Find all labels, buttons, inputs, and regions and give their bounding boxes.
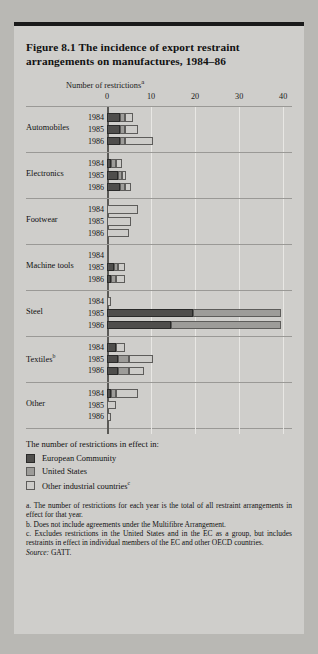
- bar-segment-other: [118, 263, 125, 271]
- legend: The number of restrictions in effect in:…: [26, 439, 292, 491]
- bar-segment-ec: [107, 343, 116, 351]
- footnotes: a. The number of restrictions for each y…: [26, 501, 292, 557]
- source-prefix: Source:: [26, 548, 49, 557]
- x-tick-20: 20: [191, 92, 199, 101]
- year-label: 1986: [84, 229, 104, 238]
- footnote-a: a. The number of restrictions for each y…: [26, 501, 292, 520]
- legend-swatch-other: [26, 481, 35, 490]
- bar-row: 1986: [26, 274, 292, 284]
- stacked-bar: [107, 137, 153, 145]
- bar-segment-other: [116, 343, 125, 351]
- footnote-c: c. Excludes restrictions in the United S…: [26, 529, 292, 548]
- stacked-bar: [107, 217, 131, 225]
- bar-row: 1986: [26, 182, 292, 192]
- bar-segment-ec: [107, 367, 118, 375]
- group-spacer: [26, 383, 292, 387]
- legend-label-us: United States: [42, 467, 87, 476]
- legend-swatch-us: [26, 467, 35, 476]
- bar-segment-us: [118, 367, 129, 375]
- year-label: 1986: [84, 137, 104, 146]
- stacked-bar: [107, 401, 116, 409]
- bar-row: 1986: [26, 412, 292, 422]
- group-spacer: [26, 245, 292, 249]
- bar-segment-other: [107, 401, 116, 409]
- bar-row: 1986: [26, 228, 292, 238]
- legend-label-ec: European Community: [42, 454, 116, 463]
- stacked-bar: [107, 205, 138, 213]
- legend-items: European CommunityUnited StatesOther ind…: [26, 454, 292, 491]
- bar-segment-us: [118, 355, 129, 363]
- bar-row: 1984: [26, 296, 292, 306]
- legend-label-text: Other industrial countries: [42, 482, 128, 491]
- bar-row: 1985: [26, 400, 292, 410]
- stacked-bar: [107, 113, 133, 121]
- bar-segment-other: [116, 159, 123, 167]
- stacked-bar: [107, 171, 126, 179]
- bar-groups: Automobiles198419851986Electronics198419…: [26, 106, 292, 428]
- stacked-bar: [107, 389, 138, 397]
- stacked-bar: [107, 125, 138, 133]
- x-tick-10: 10: [147, 92, 155, 101]
- year-label: 1986: [84, 366, 104, 375]
- year-label: 1984: [84, 297, 104, 306]
- stacked-bar: [107, 321, 281, 329]
- group-spacer: [26, 199, 292, 203]
- bar-row: 1984: [26, 388, 292, 398]
- year-label: 1984: [84, 113, 104, 122]
- bar-group: Machine tools198419851986: [26, 244, 292, 290]
- bar-group: Automobiles198419851986: [26, 106, 292, 152]
- bar-segment-ec: [107, 263, 114, 271]
- x-tick-30: 30: [235, 92, 243, 101]
- bar-segment-ec: [107, 137, 120, 145]
- bar-segment-ec: [107, 171, 118, 179]
- bar-segment-other: [107, 297, 111, 305]
- figure-title: Figure 8.1 The incidence of export restr…: [26, 40, 292, 68]
- bar-row: 1985: [26, 124, 292, 134]
- stacked-bar: [107, 343, 125, 351]
- bar-group: Textilesb198419851986: [26, 336, 292, 382]
- year-label: 1984: [84, 159, 104, 168]
- stacked-bar: [107, 309, 281, 317]
- legend-label-text: European Community: [42, 454, 116, 463]
- group-spacer: [26, 153, 292, 157]
- bar-segment-us: [193, 309, 281, 317]
- bar-group: Footwear198419851986: [26, 198, 292, 244]
- year-label: 1986: [84, 275, 104, 284]
- stacked-bar: [107, 413, 111, 421]
- bar-segment-other: [116, 275, 125, 283]
- year-label: 1986: [84, 321, 104, 330]
- group-spacer: [26, 291, 292, 295]
- year-label: 1985: [84, 217, 104, 226]
- bar-segment-other: [107, 229, 129, 237]
- legend-label-text: United States: [42, 467, 87, 476]
- bar-group: Other198419851986: [26, 382, 292, 428]
- legend-label-superscript: c: [128, 480, 131, 486]
- bar-row: 1984: [26, 342, 292, 352]
- legend-item-ec: European Community: [26, 454, 292, 463]
- legend-item-us: United States: [26, 467, 292, 476]
- bar-row: 1986: [26, 320, 292, 330]
- year-label: 1985: [84, 263, 104, 272]
- x-tick-40: 40: [279, 92, 287, 101]
- stacked-bar: [107, 159, 122, 167]
- bar-row: 1984: [26, 204, 292, 214]
- bar-segment-ec: [107, 321, 171, 329]
- page-background: Figure 8.1 The incidence of export restr…: [0, 0, 318, 654]
- bar-segment-other: [122, 171, 126, 179]
- stacked-bar: [107, 275, 125, 283]
- bar-row: 1984: [26, 250, 292, 260]
- bar-segment-other: [129, 355, 153, 363]
- bar-row: 1985: [26, 170, 292, 180]
- group-spacer: [26, 337, 292, 341]
- group-spacer: [26, 424, 292, 428]
- footnote-b: b. Does not include agreements under the…: [26, 520, 292, 529]
- bar-group: Electronics198419851986: [26, 152, 292, 198]
- bar-segment-other: [129, 367, 144, 375]
- bar-segment-other: [107, 413, 111, 421]
- bar-row: 1984: [26, 113, 292, 123]
- bar-row: 1986: [26, 366, 292, 376]
- bar-segment-other: [125, 125, 138, 133]
- year-label: 1985: [84, 355, 104, 364]
- legend-title: The number of restrictions in effect in:: [26, 439, 292, 449]
- bar-row: 1984: [26, 159, 292, 169]
